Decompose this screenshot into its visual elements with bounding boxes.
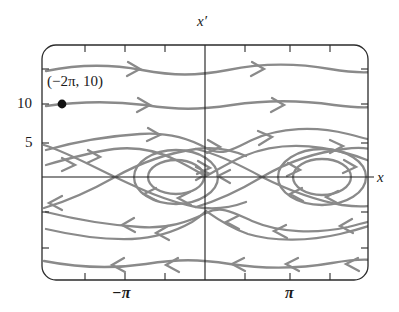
- arrow-left: [286, 258, 299, 271]
- left-ticks: [42, 69, 49, 248]
- phase-portrait-figure: x′ x 10 5 −π π (−2π, 10): [0, 0, 399, 312]
- arrow-right: [62, 158, 75, 171]
- top-ticks: [85, 45, 330, 52]
- annotated-point-label: (−2π, 10): [47, 74, 103, 89]
- annotated-point-marker: [58, 100, 67, 109]
- x-axis-label: x: [377, 170, 384, 185]
- arrow-right: [271, 98, 284, 112]
- phase-portrait-canvas: [0, 0, 399, 312]
- arrow-left: [112, 258, 125, 272]
- x-tick-label-neg-pi: −π: [112, 285, 130, 301]
- y-tick-label-5: 5: [25, 135, 33, 150]
- y-tick-label-10: 10: [17, 96, 32, 111]
- y-axis-label: x′: [197, 14, 207, 29]
- bottom-ticks: [85, 273, 330, 280]
- arrow-right: [287, 163, 300, 176]
- flow-curve-bottom-1: [44, 260, 372, 268]
- flow-curve-group: [44, 62, 374, 272]
- flow-curve-top-2: [46, 101, 372, 109]
- x-tick-label-pi: π: [285, 285, 294, 301]
- arrow-right: [251, 62, 264, 76]
- arrow-left: [274, 225, 287, 238]
